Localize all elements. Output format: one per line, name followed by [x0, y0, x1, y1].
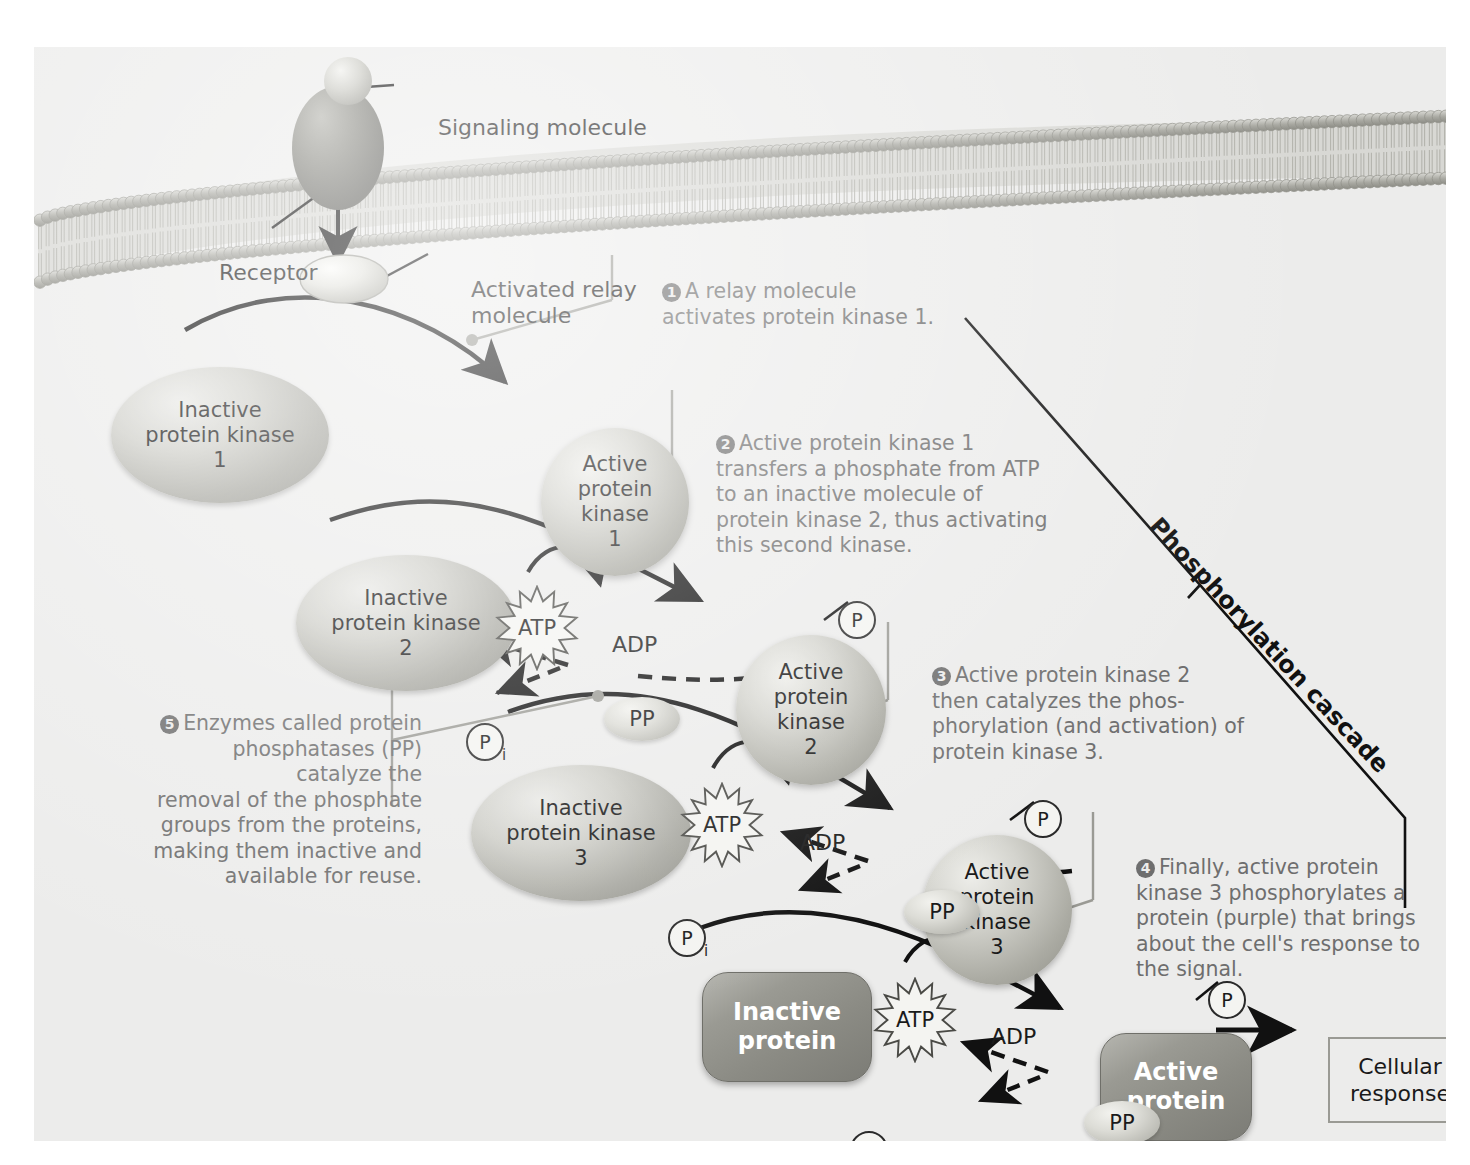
- step-1-line-2: activates protein kinase 1.: [662, 305, 934, 329]
- step-note-2: 2Active protein kinase 1 transfers a pho…: [716, 431, 1082, 559]
- step-5-line-1: Enzymes called protein: [183, 711, 422, 735]
- step-2-line-3: to an inactive molecule of: [716, 482, 982, 506]
- step-note-5: 5Enzymes called protein phosphatases (PP…: [144, 711, 422, 890]
- step-badge-1: 1: [662, 283, 681, 302]
- text-line: P: [1221, 989, 1232, 1011]
- step-5-line-6: available for reuse.: [225, 864, 422, 888]
- inorganic-phosphate-1: P: [466, 723, 504, 761]
- step-3-line-2: then catalyzes the phos-: [932, 689, 1185, 713]
- phosphate-on-kinase-3: P: [1024, 800, 1062, 838]
- step-2-line-1: Active protein kinase 1: [739, 431, 974, 455]
- step-note-3: 3Active protein kinase 2 then catalyzes …: [932, 663, 1250, 765]
- step-5-line-2: phosphatases (PP) catalyze the: [232, 737, 422, 787]
- text-line: P: [479, 731, 490, 753]
- phosphorylation-cascade-figure: Signaling molecule Receptor Activated re…: [0, 0, 1470, 1165]
- inorganic-phosphate-2-subscript: i: [704, 942, 708, 960]
- step-2-line-4: protein kinase 2, thus activating: [716, 508, 1048, 532]
- step-4-line-4: about the cell's response to: [1136, 932, 1420, 956]
- step-5-line-4: groups from the proteins,: [161, 813, 422, 837]
- step-1-line-1: A relay molecule: [685, 279, 856, 303]
- text-line: P: [1037, 808, 1048, 830]
- phosphate-on-kinase-2: P: [838, 601, 876, 639]
- inorganic-phosphate-2: P: [668, 919, 706, 957]
- step-badge-5: 5: [160, 715, 179, 734]
- step-4-line-1: Finally, active protein: [1159, 855, 1379, 879]
- step-2-line-2: transfers a phosphate from ATP: [716, 457, 1040, 481]
- text-line: P: [851, 609, 862, 631]
- step-note-4: 4Finally, active protein kinase 3 phosph…: [1136, 855, 1436, 983]
- step-3-line-1: Active protein kinase 2: [955, 663, 1190, 687]
- step-note-1: 1A relay molecule activates protein kina…: [662, 279, 992, 330]
- step-4-line-2: kinase 3 phosphorylates a: [1136, 881, 1406, 905]
- step-badge-4: 4: [1136, 859, 1155, 878]
- step-badge-3: 3: [932, 667, 951, 686]
- step-3-line-3: phorylation (and activation) of: [932, 714, 1244, 738]
- step-3-line-4: protein kinase 3.: [932, 740, 1104, 764]
- step-badge-2: 2: [716, 435, 735, 454]
- step-5-line-3: removal of the phosphate: [157, 788, 422, 812]
- inorganic-phosphate-1-subscript: i: [502, 746, 506, 764]
- phosphate-on-active-protein: P: [1208, 981, 1246, 1019]
- figure-panel: Signaling molecule Receptor Activated re…: [34, 47, 1446, 1141]
- step-4-line-5: the signal.: [1136, 957, 1243, 981]
- step-5-line-5: making them inactive and: [153, 839, 422, 863]
- text-line: P: [681, 927, 692, 949]
- text-line: P: [863, 1139, 874, 1141]
- step-2-line-5: this second kinase.: [716, 533, 912, 557]
- step-4-line-3: protein (purple) that brings: [1136, 906, 1416, 930]
